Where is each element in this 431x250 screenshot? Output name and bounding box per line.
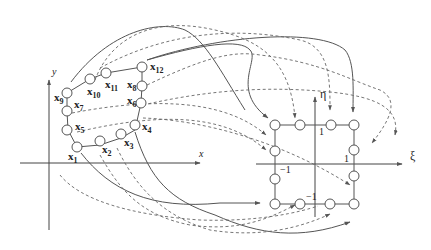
eta-axis-label: η — [320, 87, 326, 101]
label-x8: x8 — [127, 78, 137, 93]
node-x11 — [101, 68, 111, 78]
node-x4 — [130, 120, 140, 130]
node-x12 — [137, 62, 147, 72]
label-x12: x12 — [150, 60, 164, 75]
ref-node-8 — [349, 145, 359, 155]
label-x10: x10 — [87, 85, 101, 100]
mapping-curves-dashed — [60, 26, 396, 233]
label-x4: x4 — [142, 120, 152, 135]
tick-xi-minus-1: −1 — [280, 164, 291, 175]
ref-node-10 — [295, 120, 305, 130]
node-x9 — [62, 88, 72, 98]
label-x3: x3 — [124, 136, 134, 151]
label-x5: x5 — [75, 120, 85, 135]
ref-node-6 — [349, 171, 359, 181]
ref-node-5 — [270, 174, 280, 184]
label-x2: x2 — [102, 143, 112, 158]
node-x5 — [62, 125, 72, 135]
node-x7 — [62, 106, 72, 116]
node-x8 — [137, 81, 147, 91]
ref-node-7 — [270, 146, 280, 156]
ref-node-9 — [270, 120, 280, 130]
mapping-curves-solid — [71, 27, 353, 234]
ref-node-1 — [270, 199, 280, 209]
isoparametric-mapping-diagram: x y ξ η 1 1 −1 −1 — [0, 0, 431, 250]
tick-eta-plus-1: 1 — [319, 126, 324, 137]
ref-node-12 — [349, 120, 359, 130]
ref-node-2 — [295, 199, 305, 209]
y-axis-label: y — [51, 66, 57, 77]
node-x1 — [72, 142, 82, 152]
label-x11: x11 — [105, 78, 118, 93]
node-x10 — [85, 74, 95, 84]
ref-node-11 — [326, 120, 336, 130]
label-x7: x7 — [74, 98, 84, 113]
tick-xi-plus-1: 1 — [344, 153, 349, 164]
tick-eta-minus-1: −1 — [306, 191, 317, 202]
ref-node-3 — [325, 199, 335, 209]
x-axis-label: x — [198, 148, 204, 159]
ref-node-4 — [349, 199, 359, 209]
label-x6: x6 — [127, 94, 137, 109]
xi-axis-label: ξ — [410, 149, 416, 163]
node-x6 — [136, 98, 146, 108]
